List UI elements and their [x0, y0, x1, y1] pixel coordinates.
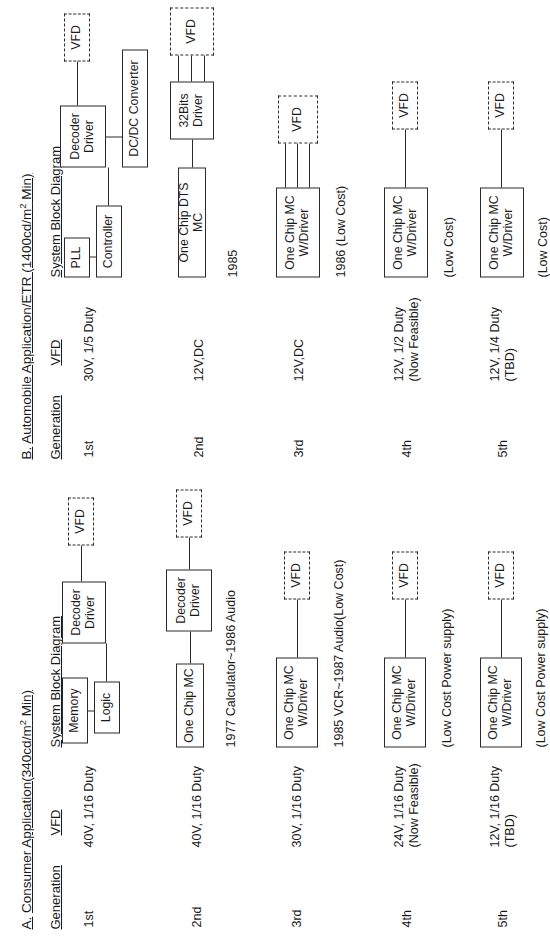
- block-one-chip-mc-driver-b4: One Chip MC W/Driver: [384, 187, 428, 277]
- block-vfd-a4: VFD: [392, 551, 418, 599]
- block-one-chip-mc-driver-a3: One Chip MC W/Driver: [276, 657, 318, 747]
- block-vfd-b5: VFD: [488, 81, 514, 129]
- block-vfd-b4: VFD: [392, 81, 418, 129]
- section-automobile-application: B. Automobile Application/ETR (1400cd/m2…: [0, 0, 550, 473]
- note-b-2: 1985: [226, 249, 240, 277]
- connector-pll-controller-b1: [90, 256, 96, 257]
- connector-mc-vfd-a4: [405, 599, 406, 657]
- block-decoder-driver-a2: Decoder Driver: [166, 569, 212, 631]
- block-vfd-b2: VFD: [170, 7, 214, 55]
- block-logic-a1: Logic: [94, 681, 120, 733]
- note-b-3: 1986 (Low Cost): [334, 185, 348, 277]
- connector-decoder-dcdc-b1: [106, 136, 122, 137]
- block-vfd-a1: VFD: [68, 497, 94, 545]
- vfd-spec-b-5: 12V, 1/4 Duty (TBD): [488, 306, 518, 381]
- section-b-title: B. Automobile Application/ETR (1400cd/m2…: [16, 173, 34, 459]
- block-controller-b1: Controller: [96, 205, 122, 277]
- section-a-title-prefix: A.: [19, 916, 34, 929]
- note-a-5: (Low Cost Power supply): [534, 608, 548, 747]
- block-32bits-driver-b2: 32Bits Driver: [170, 81, 214, 139]
- connector-mc-decoder-a2: [190, 631, 191, 663]
- connector-decoder-vfd-a1: [81, 545, 82, 581]
- block-one-chip-mc-driver-b3: One Chip MC W/Driver: [276, 187, 320, 277]
- connector-mc-driver-b2: [192, 139, 193, 167]
- diagram-page: A. Consumer Application(340cd/m2 Min) Ge…: [0, 0, 550, 943]
- connector-mc-vfd-a5: [501, 599, 502, 657]
- block-one-chip-mc-a2: One Chip MC: [176, 663, 204, 747]
- generation-label-b-1: 1st: [82, 440, 96, 457]
- block-one-chip-mc-driver-a4: One Chip MC W/Driver: [384, 657, 426, 747]
- connector-decoder-vfd-b1: [77, 61, 78, 105]
- block-vfd-b3: VFD: [278, 95, 318, 143]
- connector-mc-vfd-b4: [405, 129, 406, 187]
- block-vfd-b1: VFD: [64, 13, 90, 61]
- column-header-vfd-a: VFD: [48, 809, 63, 835]
- generation-label-b-3: 3rd: [292, 439, 306, 457]
- note-b-5: (Low Cost): [536, 217, 550, 277]
- block-pll-b1: PLL: [64, 237, 90, 277]
- section-b-title-text: Automobile Application/ETR (1400cd/m2 Mi…: [19, 173, 34, 443]
- vfd-spec-a-1: 40V, 1/16 Duty: [82, 765, 97, 847]
- vfd-spec-b-2: 12V,DC: [192, 338, 207, 381]
- note-a-3: 1985 VCR~1987 Audio(Low Cost): [332, 559, 346, 747]
- block-one-chip-mc-driver-b5: One Chip MC W/Driver: [480, 187, 524, 277]
- vfd-spec-a-2: 40V, 1/16 Duty: [190, 765, 205, 847]
- vfd-spec-b-3: 12V,DC: [292, 338, 307, 381]
- section-a-title: A. Consumer Application(340cd/m2 Min): [16, 690, 34, 929]
- connector-memory-logic-a1: [88, 710, 94, 711]
- section-a-title-text: Consumer Application(340cd/m2 Min): [19, 690, 34, 913]
- connector-logic-decoder-a1: [106, 643, 107, 681]
- section-consumer-application: A. Consumer Application(340cd/m2 Min) Ge…: [0, 473, 550, 943]
- vfd-spec-a-4: 24V, 1/16 Duty (Now Feasible): [392, 763, 422, 847]
- generation-label-b-2: 2nd: [192, 436, 206, 457]
- column-header-generation-b: Generation: [48, 395, 63, 459]
- connector-driver-vfd-b2-line3: [204, 55, 205, 81]
- connector-mc-vfd-b5: [501, 129, 502, 187]
- connector-controller-decoder-b1: [108, 167, 109, 205]
- generation-label-a-1: 1st: [82, 910, 96, 927]
- generation-label-b-5: 5th: [496, 440, 510, 457]
- vfd-spec-b-4: 12V, 1/2 Duty (Now Feasible): [392, 297, 422, 381]
- connector-decoder-vfd-a2: [189, 537, 190, 569]
- generation-label-b-4: 4th: [400, 440, 414, 457]
- generation-label-a-2: 2nd: [190, 906, 204, 927]
- connector-mc-vfd-b3-line1: [285, 143, 286, 187]
- generation-label-a-3: 3rd: [290, 909, 304, 927]
- column-header-generation-a: Generation: [48, 865, 63, 929]
- generation-label-a-5: 5th: [496, 910, 510, 927]
- block-one-chip-mc-driver-a5: One Chip MC W/Driver: [480, 657, 522, 747]
- connector-driver-vfd-b2-line2: [191, 55, 192, 81]
- note-a-2: 1977 Calculator~1986 Audio: [224, 590, 238, 747]
- block-vfd-a2: VFD: [176, 489, 202, 537]
- note-a-4: (Low Cost Power supply): [440, 608, 454, 747]
- section-b-title-prefix: B.: [19, 446, 34, 459]
- block-one-chip-dts-mc-b2: One Chip DTS MC: [178, 167, 206, 277]
- generation-label-a-4: 4th: [400, 910, 414, 927]
- connector-mc-vfd-b3-line3: [309, 143, 310, 187]
- block-memory-a1: Memory: [62, 677, 88, 743]
- vfd-spec-b-1: 30V, 1/5 Duty: [82, 306, 97, 381]
- vfd-spec-a-3: 30V, 1/16 Duty: [290, 765, 305, 847]
- connector-driver-vfd-b2-line1: [178, 55, 179, 81]
- connector-mc-vfd-b3-line2: [297, 143, 298, 187]
- block-vfd-a5: VFD: [488, 551, 514, 599]
- block-decoder-driver-a1: Decoder Driver: [62, 581, 106, 643]
- connector-mc-vfd-a3: [297, 599, 298, 657]
- rotated-page-wrapper: A. Consumer Application(340cd/m2 Min) Ge…: [0, 0, 550, 943]
- column-header-system-block-diagram-a: System Block Diagram: [48, 616, 63, 747]
- vfd-spec-a-5: 12V, 1/16 Duty (TBD): [488, 765, 518, 847]
- note-b-4: (Low Cost): [442, 217, 456, 277]
- column-header-vfd-b: VFD: [48, 339, 63, 365]
- block-dcdc-converter-b1: DC/DC Converter: [122, 49, 148, 167]
- block-vfd-a3: VFD: [284, 551, 310, 599]
- block-decoder-driver-b1: Decoder Driver: [60, 105, 106, 167]
